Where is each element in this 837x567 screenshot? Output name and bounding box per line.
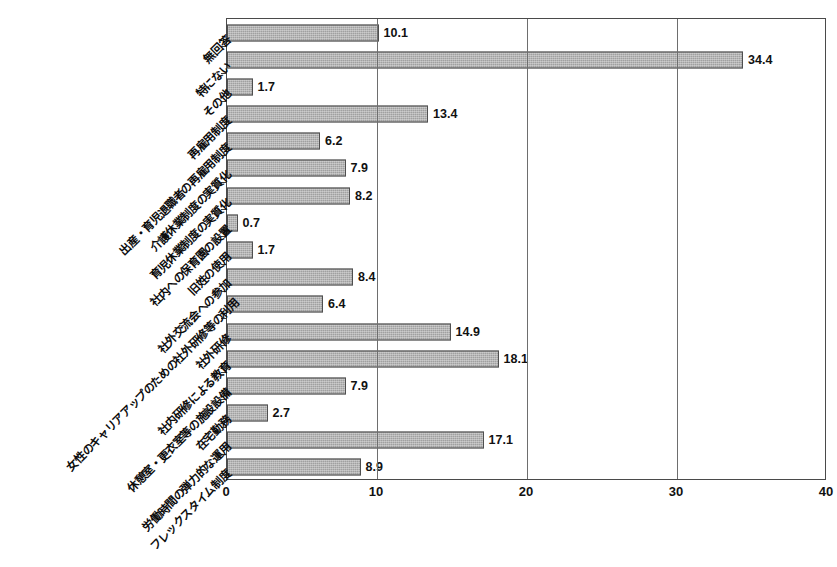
bar-value-label: 34.4 xyxy=(743,53,772,67)
bar-value-label: 8.9 xyxy=(361,460,383,474)
bar-row: 2.7 xyxy=(227,399,825,426)
bar-value-label: 13.4 xyxy=(428,107,457,121)
x-axis-tick-labels: 010203040 xyxy=(226,484,826,504)
bar-value-label: 18.1 xyxy=(499,352,528,366)
chart-title-cropped xyxy=(330,0,630,7)
bar-row: 14.9 xyxy=(227,318,825,345)
plot-area: 10.134.41.713.46.27.98.20.71.78.46.414.9… xyxy=(226,18,826,480)
gridline-20 xyxy=(527,19,528,479)
gridline-30 xyxy=(677,19,678,479)
bar-value-label: 7.9 xyxy=(346,379,368,393)
bar-row: 0.7 xyxy=(227,209,825,236)
x-tick-label-30: 30 xyxy=(669,484,683,499)
gridline-10 xyxy=(377,19,378,479)
bar-row: 10.1 xyxy=(227,19,825,46)
bar-row: 17.1 xyxy=(227,427,825,454)
bar-row: 1.7 xyxy=(227,236,825,263)
category-labels: 無回答特にないその他再雇用制度出産・育児退職者の再雇用制度介護休業制度の実質化育… xyxy=(0,0,300,567)
bar-value-label: 6.4 xyxy=(323,297,345,311)
bar-row: 8.2 xyxy=(227,182,825,209)
bar-value-label: 8.4 xyxy=(353,270,375,284)
bar-row: 1.7 xyxy=(227,73,825,100)
bar-row: 8.9 xyxy=(227,454,825,481)
x-tick-label-40: 40 xyxy=(819,484,833,499)
bar-rows: 10.134.41.713.46.27.98.20.71.78.46.414.9… xyxy=(227,19,825,479)
x-tick-label-20: 20 xyxy=(519,484,533,499)
bar-row: 7.9 xyxy=(227,372,825,399)
bar xyxy=(227,51,743,68)
bar-row: 8.4 xyxy=(227,264,825,291)
bar-value-label: 17.1 xyxy=(484,433,513,447)
bar-value-label: 14.9 xyxy=(451,325,480,339)
bar-row: 13.4 xyxy=(227,101,825,128)
chart-figure: 10.134.41.713.46.27.98.20.71.78.46.414.9… xyxy=(0,0,837,567)
bar-row: 7.9 xyxy=(227,155,825,182)
x-tick-label-10: 10 xyxy=(369,484,383,499)
bar-value-label: 8.2 xyxy=(350,189,372,203)
bar-row: 34.4 xyxy=(227,46,825,73)
bar-value-label: 10.1 xyxy=(379,26,408,40)
bar-row: 6.4 xyxy=(227,291,825,318)
bar-value-label: 6.2 xyxy=(320,134,342,148)
bar-row: 18.1 xyxy=(227,345,825,372)
bar-row: 6.2 xyxy=(227,128,825,155)
bar-value-label: 7.9 xyxy=(346,161,368,175)
